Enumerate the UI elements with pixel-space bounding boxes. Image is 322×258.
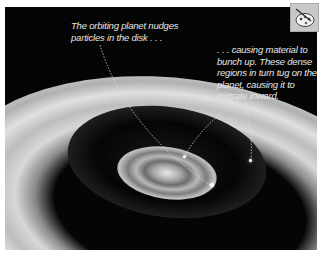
planet-marker [210,183,214,187]
caption-planet-nudges: The orbiting planet nudges particles in … [71,20,191,43]
palette-icon [291,4,318,31]
caption-material-bunches: . . . causing material to bunch up. Thes… [217,44,317,102]
dense-region-marker [183,155,186,158]
dense-region-marker [249,159,252,162]
palette-button[interactable] [290,3,319,32]
disk-illustration: The orbiting planet nudges particles in … [5,7,317,250]
